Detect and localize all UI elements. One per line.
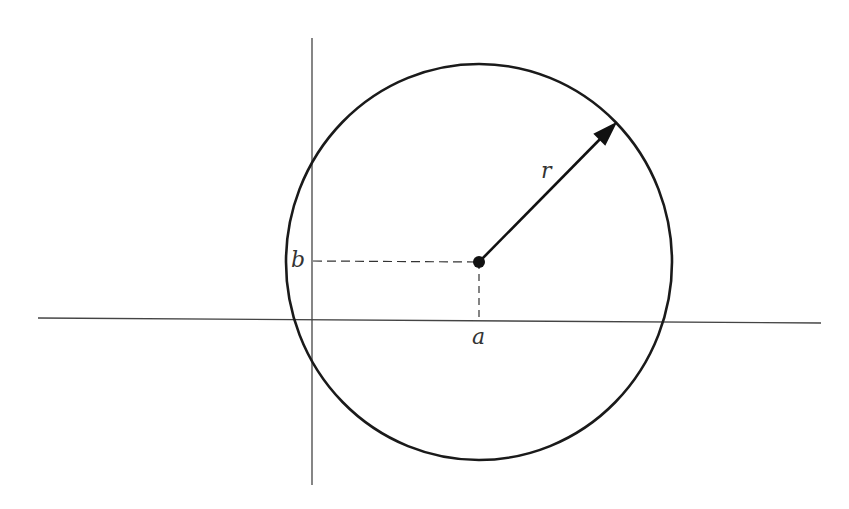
dashed-line-to-b [313, 261, 479, 262]
label-b: b [291, 247, 305, 272]
x-axis [38, 318, 821, 323]
center-point [473, 256, 485, 268]
circle-diagram: b a r [0, 0, 849, 509]
radius-arrow [479, 132, 607, 262]
label-a: a [472, 324, 485, 349]
label-r: r [541, 158, 553, 183]
